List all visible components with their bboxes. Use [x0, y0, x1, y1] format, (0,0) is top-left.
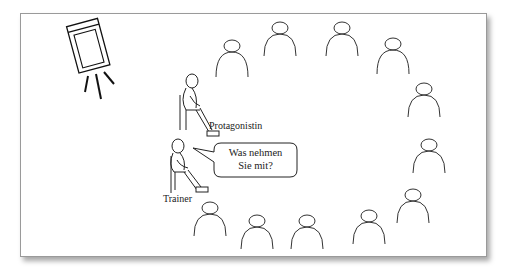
scene-drawing: [0, 0, 507, 271]
audience-person-icon: [353, 210, 385, 244]
audience-person-icon: [326, 22, 358, 56]
trainer-figure: [171, 139, 208, 193]
audience-person-icon: [408, 83, 440, 117]
audience-person-icon: [216, 40, 248, 77]
audience-person-icon: [194, 202, 226, 236]
speech-line-2: Sie mit?: [213, 159, 298, 172]
flipchart-icon: [67, 18, 114, 99]
audience-person-icon: [264, 22, 296, 56]
audience-person-icon: [291, 215, 323, 249]
speech-line-1: Was nehmen: [213, 146, 298, 159]
speech-bubble-text: Was nehmen Sie mit?: [213, 146, 298, 172]
audience-person-icon: [377, 38, 409, 74]
audience-person-icon: [397, 189, 429, 223]
trainer-label: Trainer: [163, 193, 192, 204]
audience: [194, 22, 445, 249]
audience-person-icon: [241, 215, 273, 249]
audience-person-icon: [413, 139, 445, 173]
protagonist-label: Protagonistin: [209, 120, 262, 131]
